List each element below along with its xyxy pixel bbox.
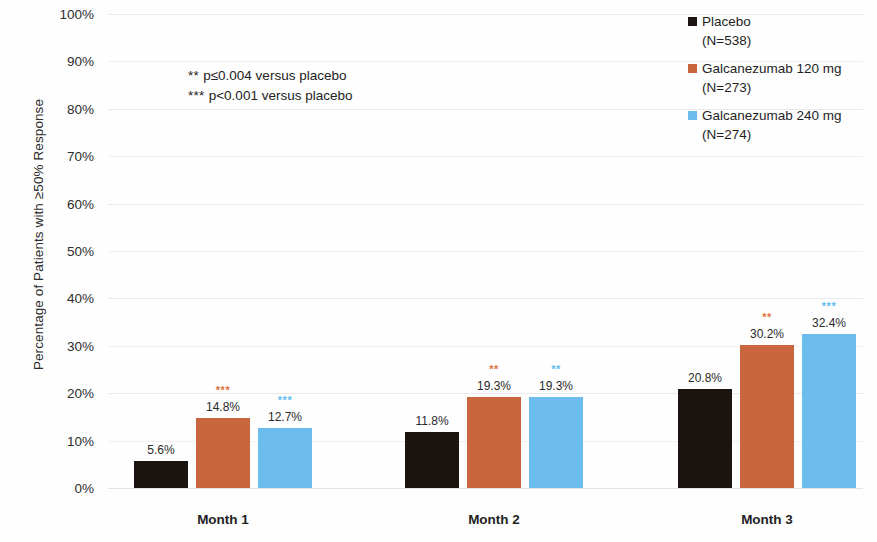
y-axis-tick-label: 80% [34,101,94,116]
significance-marker: ** [762,311,772,323]
legend-item[interactable]: Galcanezumab 120 mg(N=273) [688,59,842,97]
bar[interactable] [196,418,250,488]
bar-value-label: 19.3% [539,379,573,393]
footnote-text: p<0.001 versus placebo [209,88,353,103]
legend-swatch-icon [688,111,697,120]
bar-value-label: 20.8% [688,371,722,385]
y-axis-tick-label: 50% [34,244,94,259]
legend-label: Galcanezumab 240 mg [702,106,842,125]
legend-label: Galcanezumab 120 mg [702,59,842,78]
legend-sample-size: (N=273) [702,78,842,97]
legend-sample-size: (N=538) [702,31,842,50]
bar[interactable] [467,397,521,488]
bar-group: 11.8%19.3%**19.3%** [405,14,583,488]
x-axis-tick-label: Month 3 [667,512,867,527]
significance-marker: ** [551,363,561,375]
legend-sample-size: (N=274) [702,125,842,144]
footnote-stars: *** [188,88,209,103]
y-axis-tick-label: 90% [34,54,94,69]
bar-value-label: 14.8% [206,400,240,414]
legend-swatch-icon [688,17,697,26]
bar-value-label: 32.4% [812,316,846,330]
bar[interactable] [134,461,188,488]
gridline [108,488,863,489]
bar-value-label: 11.8% [415,414,448,428]
significance-marker: ** [489,363,499,375]
footnote-stars: ** [188,68,203,83]
bar[interactable] [529,397,583,488]
legend-row: Placebo [688,12,842,31]
chart-legend: Placebo(N=538)Galcanezumab 120 mg(N=273)… [688,12,842,153]
bar[interactable] [258,428,312,488]
x-axis-tick-label: Month 2 [394,512,594,527]
bar-value-label: 12.7% [268,410,302,424]
footnote-row: *** p<0.001 versus placebo [188,86,352,106]
y-axis-tick-label: 100% [34,7,94,22]
x-axis-tick-label: Month 1 [123,512,323,527]
legend-item[interactable]: Placebo(N=538) [688,12,842,50]
significance-marker: *** [278,394,292,406]
bar-chart-figure: Percentage of Patients with ≥50% Respons… [0,0,877,542]
y-axis-tick-label: 30% [34,338,94,353]
significance-footnotes: ** p≤0.004 versus placebo*** p<0.001 ver… [188,66,352,106]
bar[interactable] [405,432,459,488]
y-axis-tick-label: 20% [34,386,94,401]
bar[interactable] [802,334,856,488]
footnote-text: p≤0.004 versus placebo [203,68,346,83]
significance-marker: *** [822,300,836,312]
legend-row: Galcanezumab 240 mg [688,106,842,125]
y-axis-tick-label: 10% [34,433,94,448]
bar[interactable] [740,345,794,488]
y-axis-tick-label: 70% [34,149,94,164]
legend-label: Placebo [702,12,751,31]
y-axis-tick-label: 40% [34,291,94,306]
bar-value-label: 19.3% [477,379,511,393]
legend-row: Galcanezumab 120 mg [688,59,842,78]
legend-item[interactable]: Galcanezumab 240 mg(N=274) [688,106,842,144]
bar-value-label: 5.6% [147,443,174,457]
bar-value-label: 30.2% [750,327,784,341]
y-axis-tick-label: 60% [34,196,94,211]
y-axis-tick-label: 0% [34,481,94,496]
footnote-row: ** p≤0.004 versus placebo [188,66,352,86]
significance-marker: *** [216,384,230,396]
legend-swatch-icon [688,64,697,73]
bar[interactable] [678,389,732,488]
